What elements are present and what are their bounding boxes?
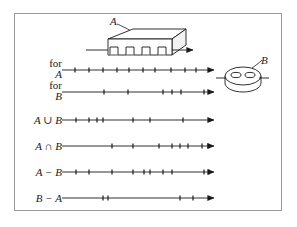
figure-border [14, 13, 282, 211]
row-label-a-union-b: A ∪ B [16, 115, 62, 126]
row-label-for-a: for A [20, 58, 62, 80]
row-label-for-b-bottom: B [20, 91, 62, 102]
figure-root: for A for B A ∪ B A ∩ B A − B B − A A B [0, 0, 297, 227]
disc-label-b: B [261, 55, 268, 66]
row-label-b-minus-a: B − A [16, 193, 62, 204]
block-label-a: A [110, 16, 117, 27]
row-label-a-minus-b: A − B [16, 167, 62, 178]
row-label-a-intersect-b: A ∩ B [16, 141, 62, 152]
row-label-for-b: for B [20, 80, 62, 102]
